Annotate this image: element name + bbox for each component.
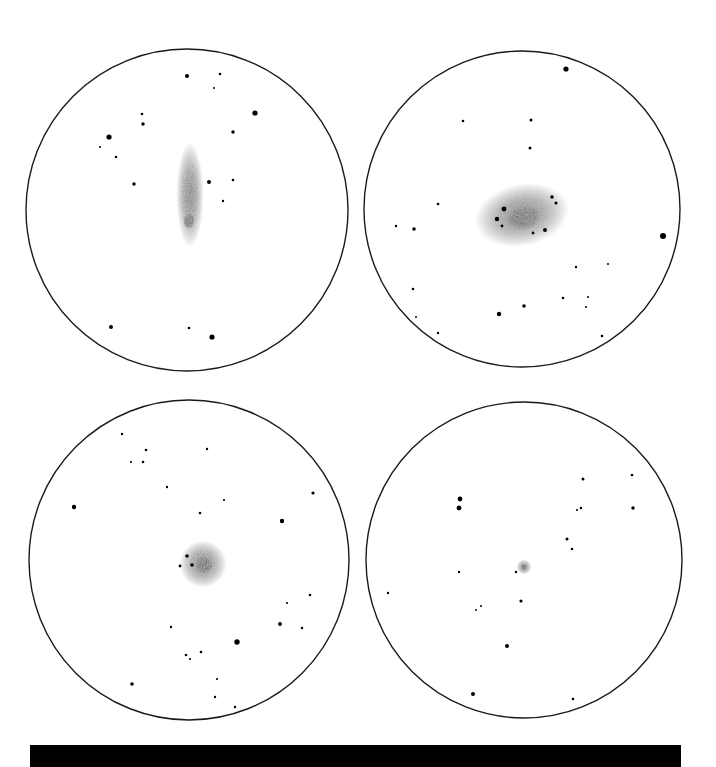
star [387, 592, 389, 594]
star [200, 651, 203, 654]
star [571, 548, 574, 551]
star [572, 698, 575, 701]
star [141, 122, 144, 125]
star [142, 461, 145, 464]
edge-on-galaxy-object [176, 143, 204, 248]
star [121, 433, 123, 435]
star [286, 602, 288, 604]
caption-text [30, 749, 38, 763]
star [566, 538, 569, 541]
star [587, 296, 589, 298]
star [395, 225, 397, 227]
star [213, 87, 215, 89]
star [130, 461, 132, 463]
star [189, 658, 191, 660]
star [278, 622, 282, 626]
panel-bottom-left [29, 400, 349, 720]
star [72, 505, 76, 509]
star [458, 497, 463, 502]
star [231, 130, 234, 133]
star [222, 200, 224, 202]
star [141, 113, 144, 116]
star [170, 626, 172, 628]
star [199, 512, 202, 515]
star [529, 147, 532, 150]
star [497, 312, 501, 316]
star [309, 594, 312, 597]
star [412, 288, 415, 291]
globular-or-elliptical-object [179, 540, 227, 588]
star [462, 120, 465, 123]
star [179, 565, 182, 568]
star [580, 507, 583, 510]
star [519, 599, 522, 602]
star [458, 571, 460, 573]
star [219, 73, 222, 76]
star [311, 491, 314, 494]
star [185, 654, 188, 657]
star [601, 335, 604, 338]
star [515, 571, 517, 573]
star [582, 478, 585, 481]
star [530, 119, 533, 122]
star [437, 203, 440, 206]
star [223, 499, 225, 501]
star [563, 66, 568, 71]
star [206, 448, 208, 450]
star [130, 682, 134, 686]
star [585, 306, 587, 308]
panel-top-right [364, 51, 680, 367]
star [412, 227, 416, 231]
planetary-nebula-object [517, 560, 532, 575]
star [480, 605, 482, 607]
sketch-canvas [0, 0, 716, 767]
star [106, 134, 111, 139]
star [280, 519, 284, 523]
star [576, 509, 578, 511]
galaxy-knot [554, 201, 557, 204]
galaxy-knot [532, 232, 535, 235]
galaxy-knot [501, 225, 504, 228]
star [145, 449, 148, 452]
sketch-panels [26, 49, 682, 720]
star [252, 110, 257, 115]
star [234, 706, 236, 708]
star [562, 297, 565, 300]
star [575, 266, 577, 268]
star [207, 180, 211, 184]
caption-bar [30, 745, 681, 767]
star [631, 506, 634, 509]
star [190, 563, 194, 567]
star [475, 609, 477, 611]
star [185, 554, 189, 558]
galaxy-knot [502, 207, 507, 212]
star [301, 627, 303, 629]
star [505, 644, 509, 648]
star [232, 179, 235, 182]
star [188, 327, 191, 330]
star [437, 332, 439, 334]
star [132, 182, 135, 185]
star [166, 486, 168, 488]
star [415, 316, 417, 318]
star [185, 74, 189, 78]
panel-top-left [26, 49, 348, 371]
star [216, 678, 218, 680]
star [109, 325, 113, 329]
star [660, 233, 666, 239]
star [522, 304, 526, 308]
star [457, 506, 462, 511]
galaxy-knot [550, 195, 554, 199]
star [607, 263, 609, 265]
star [234, 639, 239, 644]
star [99, 146, 101, 148]
galaxy-knot [543, 228, 547, 232]
star [214, 696, 216, 698]
spiral-galaxy-object [469, 175, 575, 256]
panel-bottom-right [366, 402, 682, 718]
galaxy-knot [495, 217, 499, 221]
star [115, 156, 118, 159]
star [631, 474, 634, 477]
star [471, 692, 475, 696]
star [209, 334, 214, 339]
